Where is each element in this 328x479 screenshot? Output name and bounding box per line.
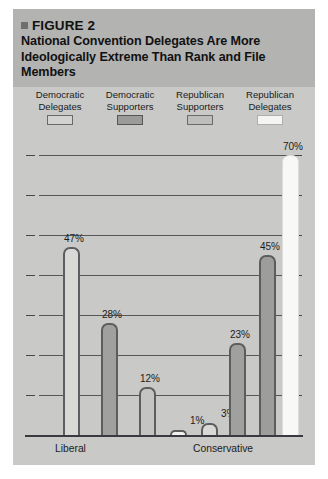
legend-label-line1: Republican <box>165 89 235 101</box>
legend-item-republican-delegates[interactable]: Republican Delegates <box>235 89 305 139</box>
legend-label-line1: Democratic <box>95 89 165 101</box>
figure-number: FIGURE 2 <box>32 18 95 33</box>
bar-value-label-conservative-45: 45% <box>260 241 280 252</box>
legend-label-line2: Supporters <box>165 101 235 113</box>
bar-value-label-conservative-70: 70% <box>283 141 303 152</box>
legend-item-republican-supporters[interactable]: Republican Supporters <box>165 89 235 139</box>
bar-conservative-45[interactable] <box>259 255 276 435</box>
bar-liberal-28[interactable] <box>101 323 118 435</box>
axis-category-conservative: Conservative <box>193 443 253 454</box>
figure-title-band: FIGURE 2 National Convention Delegates A… <box>13 9 315 87</box>
legend-label-line1: Democratic <box>25 89 95 101</box>
legend-swatch-democratic-delegates <box>47 115 73 125</box>
bar-liberal-12[interactable] <box>139 387 156 435</box>
gridline-60 <box>39 195 289 196</box>
legend-swatch-democratic-supporters <box>117 115 143 125</box>
legend-item-democratic-delegates[interactable]: Democratic Delegates <box>25 89 95 139</box>
legend-label-line2: Supporters <box>95 101 165 113</box>
axis-tick-left-30 <box>26 315 35 316</box>
bar-conservative-3[interactable] <box>201 423 218 435</box>
bar-value-label-liberal-47: 47% <box>64 233 84 244</box>
chart-plot-inner: 47%28%12%1%3%23%45%70% <box>39 155 289 435</box>
legend-item-democratic-supporters[interactable]: Democratic Supporters <box>95 89 165 139</box>
gridline-70 <box>39 155 289 156</box>
axis-tick-left-70 <box>26 155 35 156</box>
legend-label-line2: Delegates <box>25 101 95 113</box>
bar-conservative-23[interactable] <box>229 343 246 435</box>
legend-swatch-republican-supporters <box>187 115 213 125</box>
figure-number-line: FIGURE 2 <box>21 16 305 34</box>
figure-title: National Convention Delegates Are More I… <box>21 34 301 81</box>
axis-tick-left-20 <box>26 355 35 356</box>
axis-tick-left-10 <box>26 395 35 396</box>
axis-category-liberal: Liberal <box>55 443 86 454</box>
bar-value-label-liberal-12: 12% <box>140 373 160 384</box>
bar-liberal-47[interactable] <box>63 247 80 435</box>
axis-tick-left-60 <box>26 195 35 196</box>
chart-baseline-axis <box>25 435 303 437</box>
chart-plot-area: 47%28%12%1%3%23%45%70% LiberalConservati… <box>13 139 315 465</box>
bar-value-label-liberal-28: 28% <box>102 309 122 320</box>
bar-value-label-conservative-23: 23% <box>230 329 250 340</box>
legend-swatch-republican-delegates <box>257 115 283 125</box>
figure-panel: FIGURE 2 National Convention Delegates A… <box>13 9 315 465</box>
legend-label-line1: Republican <box>235 89 305 101</box>
chart-legend: Democratic Delegates Democratic Supporte… <box>13 89 315 139</box>
axis-tick-left-50 <box>26 235 35 236</box>
legend-label-line2: Delegates <box>235 101 305 113</box>
axis-tick-left-40 <box>26 275 35 276</box>
square-bullet-icon <box>21 22 28 29</box>
bar-conservative-70[interactable] <box>282 155 299 435</box>
